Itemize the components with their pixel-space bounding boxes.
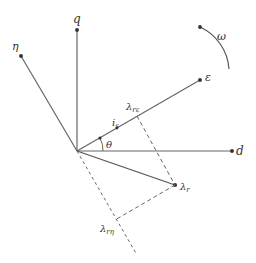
q-axis-label: q: [73, 12, 81, 26]
projection-eta: [115, 185, 175, 220]
eta-axis: [21, 56, 77, 151]
is-label: is: [112, 117, 119, 130]
eta-axis-label: η: [12, 40, 19, 53]
lambda-r-epsilon-label: λrε: [125, 101, 140, 114]
epsilon-axis: [77, 80, 200, 151]
vector-diagram: q d η ε ω θ is λr λrε λrη: [0, 0, 256, 263]
d-axis-label: d: [236, 144, 244, 158]
omega-label: ω: [217, 30, 226, 43]
lambda-r-vector: [77, 151, 175, 185]
lambda-r-eta-label: λrη: [99, 223, 115, 236]
epsilon-axis-label: ε: [205, 71, 211, 84]
theta-label: θ: [106, 139, 112, 150]
lambda-r-label: λr: [179, 181, 190, 194]
theta-arc: [100, 138, 103, 151]
eta-extension: [77, 151, 137, 255]
